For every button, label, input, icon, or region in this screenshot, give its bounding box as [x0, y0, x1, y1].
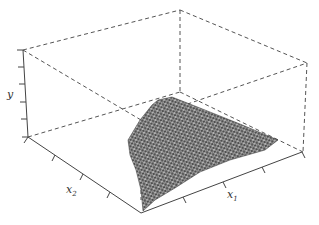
x2-axis-label: x2 — [66, 183, 77, 198]
x1-axis-label: x1 — [227, 188, 238, 203]
y-axis-label: y — [6, 88, 14, 101]
plot-canvas: y x2 x1 — [0, 0, 319, 225]
y-axis — [17, 50, 28, 137]
mesh-surface — [128, 97, 278, 211]
x2-axis — [24, 137, 141, 213]
